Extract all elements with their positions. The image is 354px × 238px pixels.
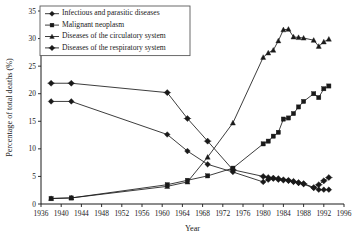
data-point-marker (326, 187, 332, 193)
data-point-marker (230, 120, 235, 125)
data-point-marker (321, 39, 326, 44)
y-tick-label: 5 (32, 172, 36, 181)
x-tick-label: 1956 (135, 209, 150, 218)
data-point-marker (296, 105, 300, 109)
y-tick-label: 25 (29, 62, 37, 71)
data-point-marker (260, 179, 266, 185)
chart-legend: Infectious and parasitic diseasesMaligna… (40, 6, 190, 56)
legend-label: Infectious and parasitic diseases (62, 8, 160, 17)
x-tick-label: 1988 (296, 209, 311, 218)
x-tick-label: 1948 (94, 209, 109, 218)
data-point-marker (271, 134, 275, 138)
x-tick-label: 1952 (114, 209, 129, 218)
x-tick-label: 1972 (215, 209, 230, 218)
legend-label: Malignant neoplasm (62, 20, 124, 29)
data-point-marker (326, 37, 331, 42)
y-tick-label: 35 (29, 7, 37, 16)
legend-item-2[interactable]: Diseases of the circulatory system (45, 31, 166, 40)
y-axis-title: Percentage of total deaths (%) (5, 58, 14, 157)
data-point-marker (291, 111, 295, 115)
legend-item-0[interactable]: Infectious and parasitic diseases (45, 8, 160, 17)
x-tick-label: 1944 (74, 209, 89, 218)
data-point-marker (68, 99, 74, 105)
x-tick-label: 1996 (337, 209, 352, 218)
x-tick-label: 1984 (276, 209, 291, 218)
data-point-marker (312, 92, 316, 96)
legend-item-3[interactable]: Diseases of the respiratory system (45, 43, 166, 52)
x-tick-label: 1976 (236, 209, 251, 218)
series-line (51, 101, 329, 189)
data-point-marker (276, 130, 280, 134)
y-tick-label: 15 (29, 117, 37, 126)
x-tick-label: 1980 (256, 209, 271, 218)
data-point-marker (327, 84, 331, 88)
data-point-marker (48, 99, 54, 105)
data-point-marker (281, 117, 285, 121)
data-point-marker (276, 38, 281, 43)
x-tick-label: 1936 (34, 209, 49, 218)
data-point-marker (261, 142, 265, 146)
data-point-marker (206, 174, 210, 178)
x-tick-label: 1968 (195, 209, 210, 218)
data-point-marker (286, 27, 291, 32)
series-3 (47, 80, 332, 190)
data-point-marker (322, 87, 326, 91)
y-tick-label: 10 (29, 144, 37, 153)
data-point-marker (266, 139, 270, 143)
data-point-marker (50, 23, 54, 27)
data-point-marker (266, 50, 271, 55)
legend-label: Diseases of the circulatory system (62, 31, 166, 40)
x-tick-label: 1964 (175, 209, 190, 218)
y-tick-label: 20 (29, 89, 37, 98)
y-tick-label: 0 (32, 200, 36, 209)
y-tick-label: 30 (29, 34, 37, 43)
x-tick-label: 1992 (316, 209, 331, 218)
x-axis-ticks: 1936194019441948195219561960196419681972… (34, 204, 352, 218)
y-axis-ticks: 05101520253035 (29, 7, 41, 209)
legend-label: Diseases of the respiratory system (62, 43, 166, 52)
data-point-marker (317, 95, 321, 99)
x-tick-label: 1960 (155, 209, 170, 218)
data-point-marker (302, 99, 306, 103)
data-point-marker (271, 48, 276, 53)
series-line (51, 83, 329, 187)
line-chart: 05101520253035 1936194019441948195219561… (0, 0, 354, 238)
x-tick-label: 1940 (54, 209, 69, 218)
data-point-marker (286, 116, 290, 120)
x-axis-title: Year (185, 224, 200, 233)
chart-container: 05101520253035 1936194019441948195219561… (0, 0, 354, 238)
data-point-marker (205, 161, 211, 167)
